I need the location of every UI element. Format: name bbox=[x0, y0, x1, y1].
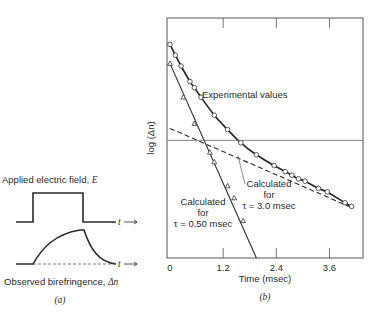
experimental-point bbox=[192, 85, 197, 90]
experimental-point bbox=[290, 173, 295, 178]
observed-birefringence-label: Observed birefringence, Δn bbox=[4, 276, 119, 287]
experimental-point bbox=[316, 186, 321, 191]
experimental-point bbox=[349, 204, 354, 209]
experimental-point bbox=[254, 153, 259, 158]
experimental-point bbox=[225, 127, 230, 132]
experimental-point bbox=[325, 190, 330, 195]
experimental-point bbox=[179, 64, 184, 69]
panel-b: 01.22.43.6 log (Δn) Time (msec) (b) Expe… bbox=[145, 18, 363, 303]
experimental-point bbox=[296, 177, 301, 182]
calculated-point bbox=[225, 183, 230, 187]
calculated-point bbox=[241, 218, 246, 222]
experimental-point bbox=[168, 42, 173, 47]
experimental-point bbox=[283, 169, 288, 174]
x-tick-label: 0 bbox=[167, 262, 172, 273]
x-axis-label: Time (msec) bbox=[239, 273, 291, 284]
experimental-point bbox=[343, 201, 348, 206]
annotation-tau3-l2: for bbox=[263, 189, 274, 200]
field-pulse-trace bbox=[16, 193, 116, 222]
figure: Applied electric field, E t t Observed b… bbox=[0, 0, 376, 313]
panel-a-caption: (a) bbox=[54, 295, 65, 306]
experimental-point bbox=[239, 141, 244, 146]
x-ticks: 01.22.43.6 bbox=[167, 18, 336, 273]
panel-b-caption: (b) bbox=[259, 292, 270, 303]
x-tick-label: 2.4 bbox=[270, 262, 283, 273]
experimental-point bbox=[303, 179, 308, 184]
experimental-point bbox=[173, 53, 178, 58]
x-tick-label: 1.2 bbox=[217, 262, 230, 273]
annotation-tau05-l1: Calculated bbox=[181, 196, 226, 207]
t-axis-label-top: t bbox=[118, 217, 121, 227]
y-axis-label: log (Δn) bbox=[145, 121, 156, 154]
x-tick-label: 3.6 bbox=[323, 262, 336, 273]
t-axis-label-bottom: t bbox=[118, 259, 121, 269]
annotation-tau3-l3: τ = 3.0 msec bbox=[242, 200, 295, 211]
experimental-point bbox=[272, 163, 277, 168]
calculated-point bbox=[168, 61, 173, 65]
annotation-tau05-l3: τ = 0.50 msec bbox=[174, 218, 233, 229]
annotation-tau3-l1: Calculated bbox=[247, 178, 292, 189]
experimental-point bbox=[188, 79, 193, 84]
annotation-tau05-l2: for bbox=[197, 207, 208, 218]
annotation-experimental: Experimental values bbox=[202, 89, 288, 100]
birefringence-trace bbox=[16, 230, 116, 264]
applied-field-label: Applied electric field, E bbox=[2, 174, 98, 185]
calculated-point bbox=[232, 195, 237, 199]
panel-a: Applied electric field, E t t Observed b… bbox=[2, 174, 137, 306]
experimental-point bbox=[212, 113, 217, 118]
